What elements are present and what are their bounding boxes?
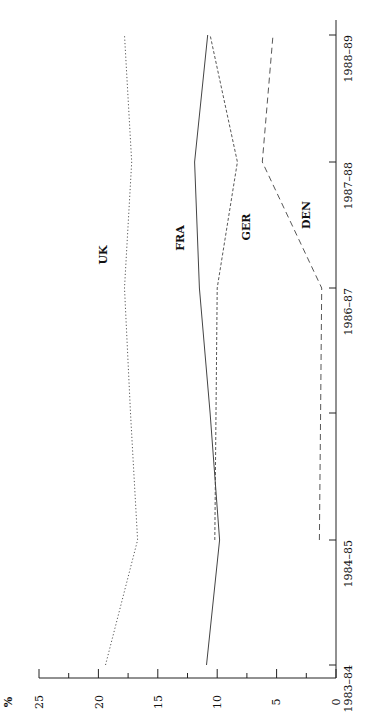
x-tick-label-1984-85: 1984–85	[342, 540, 355, 588]
series-label-uk: UK	[97, 245, 110, 265]
y-tick-label-25: 25	[33, 695, 46, 709]
y-unit-label: %	[2, 696, 15, 707]
y-tick-label-10: 10	[211, 695, 224, 709]
value-ticks	[39, 669, 336, 678]
x-tick-label-1987-88: 1987–88	[342, 162, 355, 210]
series-line-uk	[106, 35, 138, 665]
x-tick-label-1986-87: 1986–87	[342, 288, 355, 336]
line-chart: 0 5 10 15 20 25 % 1983–84 1984–85 1986–8…	[0, 0, 375, 725]
series-label-ger: GER	[240, 213, 253, 241]
y-tick-label-20: 20	[93, 695, 106, 709]
series-label-den: DEN	[300, 201, 313, 229]
y-tick-label-15: 15	[152, 695, 165, 709]
series-line-fra	[195, 35, 220, 665]
series-label-fra: FRA	[174, 225, 187, 251]
series-lines	[106, 35, 322, 665]
series-line-den	[262, 35, 321, 540]
y-tick-label-5: 5	[270, 699, 283, 706]
category-ticks	[329, 35, 336, 665]
x-tick-label-1983-84: 1983–84	[342, 665, 355, 713]
x-tick-label-1988-89: 1988–89	[342, 35, 355, 83]
